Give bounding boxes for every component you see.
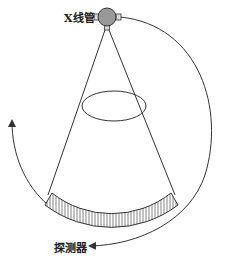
xray-tube bbox=[94, 8, 121, 30]
beam-cone bbox=[48, 30, 175, 195]
ct-diagram bbox=[0, 0, 226, 263]
rotation-arrow-left bbox=[12, 121, 48, 205]
detector-label: 探测器 bbox=[54, 239, 87, 255]
patient-ellipse bbox=[82, 91, 146, 121]
xray-tube-label: X线管 bbox=[64, 9, 95, 25]
